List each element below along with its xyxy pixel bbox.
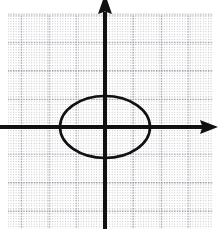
- dotted-grid: [8, 14, 213, 229]
- grid-line-v: [76, 15, 79, 229]
- grid-line-v: [160, 15, 163, 229]
- grid-line-v: [48, 15, 51, 229]
- grid-line-h: [8, 14, 213, 17]
- grid-line-h: [8, 182, 213, 185]
- coordinate-plane-svg: [0, 0, 221, 229]
- grid-line-v: [132, 15, 135, 229]
- grid-line-v: [20, 15, 23, 229]
- grid-line-h: [8, 42, 213, 45]
- grid-line-h: [8, 210, 213, 213]
- grid-line-v: [188, 15, 191, 229]
- grid-minor-dots: [8, 15, 213, 229]
- grid-line-h: [8, 154, 213, 157]
- grid-line-h: [8, 98, 213, 101]
- grid-line-h: [8, 70, 213, 73]
- figure-canvas: [0, 0, 221, 229]
